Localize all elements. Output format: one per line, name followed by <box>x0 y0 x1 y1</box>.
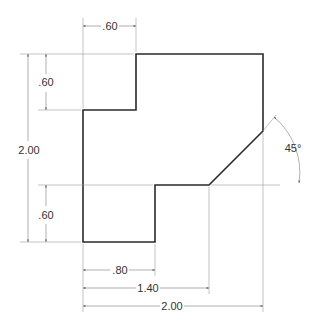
dim-label-chamfer-start: 1.40 <box>137 282 158 294</box>
dim-label-top-width: .60 <box>102 20 117 32</box>
dim-label-bottom-step-height: .60 <box>38 209 53 221</box>
dim-label-overall-width: 2.00 <box>161 300 182 312</box>
dim-label-top-step-height: .60 <box>38 76 53 88</box>
part-outline <box>83 54 263 242</box>
dimension-lines <box>28 26 300 306</box>
extension-lines <box>20 18 280 312</box>
dim-label-chamfer-angle: 45° <box>285 142 302 154</box>
dim-label-bottom-width: .80 <box>112 264 127 276</box>
dim-label-overall-height: 2.00 <box>18 144 39 156</box>
technical-drawing: .60 .60 2.00 .60 .80 1.40 2.00 45° <box>0 0 319 335</box>
